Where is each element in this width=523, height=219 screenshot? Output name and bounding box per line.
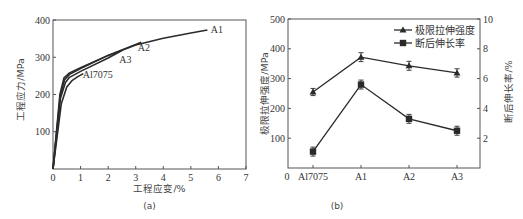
curve-label-a1: A1 [211, 24, 223, 35]
legend: 极限拉伸强度断后伸长率 [394, 24, 475, 49]
y-right-tick-label: 10 [483, 14, 493, 25]
x-category-label: A1 [355, 171, 367, 182]
y-right-tick-label: 2 [483, 133, 488, 144]
x-tick-label: 5 [188, 172, 193, 183]
series-tensile-strength [310, 53, 461, 96]
panel-label-a: (a) [143, 201, 156, 211]
curve-label-a3: A3 [119, 54, 131, 65]
series-elongation [310, 80, 460, 156]
figure: 01234567100200300400工程应变/%工程应力/MPa(a)A1A… [0, 0, 523, 219]
y-tick-label: 200 [35, 89, 50, 100]
curve-a1 [53, 30, 207, 169]
panel-b-strength-elongation-chart: 1002003004005002468100Al7075A1A2A3极限拉伸强度… [259, 14, 514, 212]
x-tick-label: 6 [216, 172, 221, 183]
x-category-label: A3 [451, 171, 463, 182]
square-marker [358, 81, 364, 87]
y-right-axis-title: 断后伸长率/% [503, 60, 514, 122]
square-marker [400, 40, 406, 46]
triangle-marker [310, 89, 317, 95]
y-tick-label: 400 [35, 15, 50, 26]
y-left-axis-title: 极限拉伸强度/MPa [259, 52, 270, 135]
legend-item-label: 极限拉伸强度 [415, 24, 475, 36]
y-left-tick-label: 100 [270, 133, 285, 144]
x-category-label: A2 [403, 171, 415, 182]
panel-label-b: (b) [331, 201, 344, 211]
curve-label-a2: A2 [138, 42, 150, 53]
y-right-tick-label: 8 [483, 43, 488, 54]
square-marker [406, 116, 412, 122]
x-category-label: Al7075 [298, 171, 328, 182]
y-tick-label: 300 [35, 52, 50, 63]
x-tick-label: 2 [106, 172, 111, 183]
x-tick-label: 4 [161, 172, 166, 183]
y-left-tick-label: 400 [270, 43, 285, 54]
y-right-tick-label: 4 [483, 103, 488, 114]
x-axis-title: 工程应变/% [133, 183, 185, 194]
y-tick-label: 100 [35, 126, 50, 137]
y-left-tick-label: 300 [270, 73, 285, 84]
square-marker [310, 148, 316, 154]
triangle-marker [358, 54, 365, 60]
x-origin-label: 0 [285, 171, 290, 182]
square-marker [454, 128, 460, 134]
x-tick-label: 7 [244, 172, 249, 183]
curve-label-al7075: Al7075 [83, 69, 113, 80]
y-left-tick-label: 500 [270, 14, 285, 25]
x-tick-label: 0 [51, 172, 56, 183]
y-right-tick-label: 6 [483, 73, 488, 84]
x-tick-label: 3 [133, 172, 138, 183]
x-tick-label: 1 [78, 172, 83, 183]
y-axis-title: 工程应力/MPa [15, 58, 26, 121]
panel-a-stress-strain-chart: 01234567100200300400工程应变/%工程应力/MPa(a)A1A… [15, 15, 249, 212]
y-left-tick-label: 200 [270, 103, 285, 114]
legend-item-label: 断后伸长率 [415, 37, 465, 49]
